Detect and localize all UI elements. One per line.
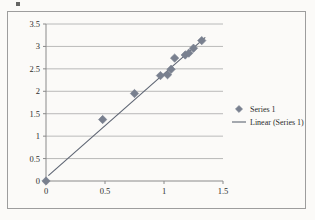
chart-figure: 00.511.522.533.5 00.511.5 Series 1Linear… — [0, 0, 315, 220]
y-tick-label: 3.5 — [29, 19, 40, 29]
x-axis-tick-labels: 00.511.5 — [44, 186, 228, 196]
legend: Series 1Linear (Series 1) — [232, 105, 304, 127]
trendline-linear-series-1 — [48, 37, 205, 175]
y-tick-label: 0 — [36, 176, 40, 186]
x-tick-label: 1.5 — [218, 186, 229, 196]
y-tick-label: 1 — [36, 131, 40, 141]
legend-item-label: Series 1 — [250, 105, 276, 114]
y-tick-label: 0.5 — [29, 154, 40, 164]
legend-item-label: Linear (Series 1) — [250, 118, 304, 127]
data-point-marker — [98, 115, 106, 123]
data-point-marker — [170, 54, 178, 62]
y-tick-label: 3 — [36, 41, 40, 51]
y-tick-label: 2 — [36, 86, 40, 96]
x-tick-label: 0.5 — [100, 186, 111, 196]
scan-artifact-speck — [16, 2, 20, 6]
y-axis-tick-labels: 00.511.522.533.5 — [29, 19, 40, 186]
legend-diamond-marker — [235, 105, 242, 112]
scatter-plot: 00.511.522.533.5 00.511.5 Series 1Linear… — [8, 12, 305, 208]
data-point-marker — [42, 177, 50, 185]
x-tick-label: 0 — [44, 186, 48, 196]
y-tick-label: 2.5 — [29, 64, 40, 74]
trendline — [48, 37, 205, 175]
data-point-marker — [156, 71, 164, 79]
y-tick-label: 1.5 — [29, 109, 40, 119]
x-tick-label: 1 — [162, 186, 166, 196]
chart-frame: 00.511.522.533.5 00.511.5 Series 1Linear… — [7, 11, 306, 209]
